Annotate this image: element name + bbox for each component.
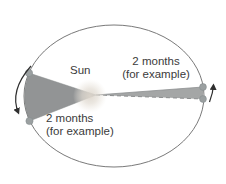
sun-label: Sun	[70, 64, 90, 77]
sun-glow	[73, 79, 107, 113]
perihelion-sweep-label: 2 months (for example)	[46, 112, 114, 137]
swept-area-aphelion	[96, 87, 203, 99]
motion-arrow-right-icon	[210, 85, 214, 102]
aphelion-sweep-label-line1: 2 months	[114, 55, 198, 68]
perihelion-sweep-label-line2: (for example)	[46, 125, 114, 138]
planet-dot-left-top	[25, 69, 32, 76]
aphelion-sweep-label-line2: (for example)	[114, 68, 198, 81]
planet-dot-right-top	[200, 84, 207, 91]
planet-dot-right-bottom	[200, 96, 207, 103]
orbit-diagram: Sun 2 months (for example) 2 months (for…	[0, 0, 226, 184]
aphelion-sweep-label: 2 months (for example)	[114, 55, 198, 80]
planet-dot-left-bottom	[26, 117, 33, 124]
perihelion-sweep-label-line1: 2 months	[46, 112, 114, 125]
orbit-diagram-canvas	[0, 0, 226, 184]
